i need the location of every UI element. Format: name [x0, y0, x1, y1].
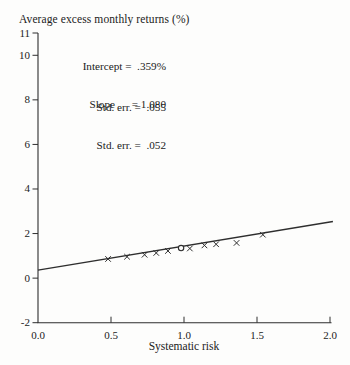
y-tick-label: 2	[25, 227, 31, 239]
portfolio-point-x	[234, 240, 240, 246]
y-tick-label: 11	[19, 27, 30, 39]
x-tick-label: 2.0	[323, 329, 337, 341]
y-tick-label: 0	[25, 272, 31, 284]
plot-canvas: 111086420-20.00.51.01.52.0	[0, 0, 350, 365]
x-tick-label: 1.0	[177, 329, 191, 341]
regression-line	[38, 222, 333, 271]
portfolio-point-x	[187, 246, 193, 252]
axes-lines	[38, 33, 332, 323]
market-portfolio-point	[178, 245, 183, 250]
x-tick-label: 1.5	[250, 329, 264, 341]
capm-regression-figure: Average excess monthly returns (%) Inter…	[0, 0, 350, 365]
portfolio-point-x	[202, 243, 208, 249]
y-tick-label: 8	[25, 93, 31, 105]
y-tick-label: 4	[25, 182, 31, 194]
y-tick-label: 10	[19, 49, 31, 61]
x-tick-label: 0.0	[31, 329, 45, 341]
x-axis-label: Systematic risk	[38, 340, 330, 352]
portfolio-point-x	[213, 241, 219, 247]
y-tick-label: -2	[21, 316, 30, 328]
x-tick-label: 0.5	[104, 329, 118, 341]
y-tick-label: 6	[25, 138, 31, 150]
